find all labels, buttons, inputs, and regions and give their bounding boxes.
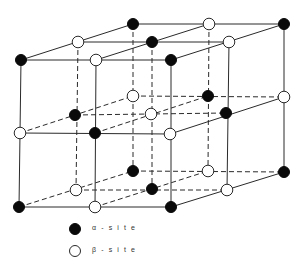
- alpha-site-legend-icon: [70, 224, 81, 235]
- beta-site-legend-icon: [70, 246, 81, 257]
- beta-site-node: [278, 91, 290, 103]
- beta-site-node: [164, 128, 176, 140]
- beta-site-node: [145, 108, 157, 120]
- alpha-site-node: [203, 91, 214, 102]
- alpha-site-label: α - s i t e: [92, 224, 137, 231]
- alpha-site-node: [16, 55, 27, 66]
- alpha-site-node: [166, 202, 177, 213]
- alpha-site-node: [128, 19, 139, 30]
- alpha-site-node: [221, 108, 232, 119]
- legend: [70, 224, 81, 257]
- beta-site-node: [202, 165, 214, 177]
- alpha-site-node: [166, 55, 177, 66]
- alpha-site-node: [14, 202, 25, 213]
- alpha-site-node: [90, 128, 101, 139]
- beta-site-node: [127, 90, 139, 102]
- alpha-site-node: [147, 184, 158, 195]
- beta-site-node: [70, 184, 82, 196]
- alpha-site-node: [147, 37, 158, 48]
- beta-site-node: [221, 184, 233, 196]
- beta-site-node: [223, 36, 235, 48]
- alpha-site-node: [279, 167, 290, 178]
- beta-site-node: [72, 36, 84, 48]
- beta-site-node: [203, 18, 215, 30]
- alpha-site-node: [279, 19, 290, 30]
- alpha-site-node: [128, 166, 139, 177]
- crystal-lattice-diagram: [0, 0, 300, 266]
- lattice-nodes: [14, 18, 290, 213]
- beta-site-node: [90, 54, 102, 66]
- beta-site-node: [89, 201, 101, 213]
- beta-site-node: [14, 127, 26, 139]
- alpha-site-node: [70, 110, 81, 121]
- beta-site-label: β - s i t e: [92, 246, 137, 253]
